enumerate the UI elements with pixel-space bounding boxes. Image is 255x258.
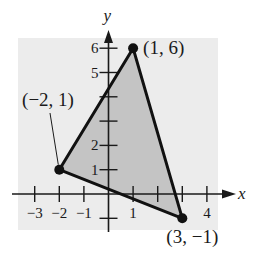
y-tick-label: 1 [91, 162, 99, 178]
vertex-label: (−2, 1) [22, 89, 74, 111]
y-tick-label: 6 [91, 40, 99, 56]
vertex-point [54, 165, 64, 175]
x-tick-label: 4 [203, 205, 211, 221]
vertex-label: (3, −1) [166, 226, 218, 248]
x-axis-arrow-icon [222, 190, 236, 199]
x-axis-label: x [237, 184, 246, 203]
vertex-point [177, 213, 187, 223]
x-tick-label: −1 [76, 205, 92, 221]
x-tick-label: −2 [51, 205, 67, 221]
y-tick-label: 5 [91, 65, 99, 81]
vertex-label: (1, 6) [143, 37, 184, 59]
triangle-plot: −3−2−114 x 1256 y (1, 6)(−2, 1)(3, −1) [0, 0, 255, 258]
x-tick-label: −3 [27, 205, 43, 221]
vertex-point [128, 43, 138, 53]
x-tick-label: 1 [129, 205, 137, 221]
y-tick-label: 2 [91, 137, 99, 153]
y-axis-label: y [102, 6, 112, 25]
y-axis-arrow-icon [104, 30, 113, 43]
